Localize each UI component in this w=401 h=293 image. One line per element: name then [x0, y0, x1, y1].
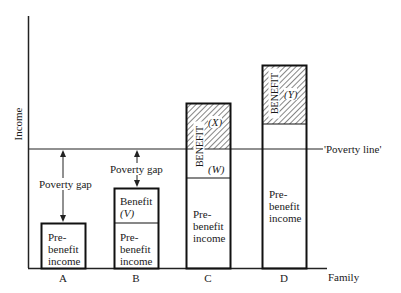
bar-d-y-label: (Y)	[284, 88, 297, 100]
y-axis-label: Income	[12, 104, 24, 144]
category-label-c: C	[198, 272, 218, 284]
bar-c-w-label: (W)	[208, 163, 225, 175]
poverty-gap-label-a: Poverty gap	[38, 178, 93, 190]
bar-c-benefit-vertical: BENEFIT	[194, 122, 205, 172]
x-axis-label: Family	[328, 271, 359, 283]
category-label-d: D	[274, 272, 294, 284]
bar-d-benefit-vertical: BENEFIT	[269, 69, 280, 119]
bar-c-x-label: (X)	[208, 116, 222, 128]
poverty-line-label: 'Poverty line'	[324, 143, 381, 155]
bar-b-pre-benefit-text: Pre- benefit income	[120, 231, 152, 267]
bar-b-benefit-text: Benefit (V)	[120, 195, 152, 219]
poverty-gap-label-b: Poverty gap	[109, 163, 164, 175]
bar-a-text: Pre- benefit income	[48, 231, 80, 267]
category-label-a: A	[53, 272, 73, 284]
category-label-b: B	[126, 272, 146, 284]
bar-d-pre-benefit-text: Pre- benefit income	[269, 188, 301, 224]
bar-c-pre-benefit-text: Pre- benefit income	[193, 208, 225, 244]
